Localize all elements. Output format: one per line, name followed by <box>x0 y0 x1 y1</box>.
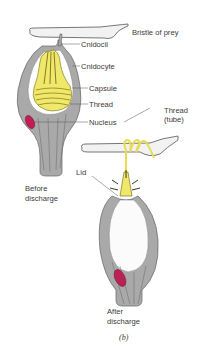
label-cnidocil: Cnidocil <box>81 40 108 49</box>
label-capsule: Capsule <box>89 84 117 93</box>
caption-before-1: Before <box>25 184 47 194</box>
panel-label: (b) <box>119 333 128 342</box>
caption-after-2: discharge <box>107 317 140 327</box>
caption-before-2: discharge <box>25 194 58 204</box>
label-thread-tube-2: (tube) <box>164 115 184 124</box>
label-bristle: Bristle of prey <box>132 28 178 37</box>
label-lid: Lid <box>76 168 86 177</box>
prey-bristle-top <box>30 24 129 39</box>
label-thread-tube-1: Thread <box>164 106 188 115</box>
label-cnidocyte: Cnidocyte <box>81 62 115 71</box>
label-nucleus: Nucleus <box>89 118 116 127</box>
label-thread: Thread <box>89 100 113 109</box>
cnidocyte-diagram <box>0 0 202 358</box>
caption-after-1: After <box>107 307 123 317</box>
